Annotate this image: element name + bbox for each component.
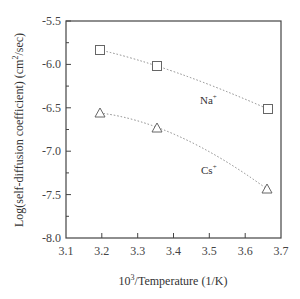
cs-fit-curve xyxy=(100,113,267,189)
square-marker xyxy=(96,46,105,55)
svg-text:3.5: 3.5 xyxy=(202,244,217,258)
svg-text:3.4: 3.4 xyxy=(166,244,181,258)
na-series-markers xyxy=(96,46,273,114)
y-tick-labels: -5.5 -6.0 -6.5 -7.0 -7.5 -8.0 xyxy=(42,14,61,245)
y-axis-title: Log(self-diffusion coefficient) (cm2/sec… xyxy=(11,33,26,227)
svg-text:-5.5: -5.5 xyxy=(42,14,61,28)
cs-series-label: Cs+ xyxy=(201,163,217,176)
square-marker xyxy=(153,62,162,71)
svg-text:3.6: 3.6 xyxy=(238,244,253,258)
svg-text:3.2: 3.2 xyxy=(94,244,109,258)
svg-text:-6.5: -6.5 xyxy=(42,101,61,115)
svg-text:-6.0: -6.0 xyxy=(42,57,61,71)
x-tick-labels: 3.1 3.2 3.3 3.4 3.5 3.6 3.7 xyxy=(59,244,289,258)
square-marker xyxy=(264,105,273,114)
triangle-marker xyxy=(152,123,162,132)
x-axis-ticks xyxy=(102,233,245,238)
cs-series-markers xyxy=(95,108,272,193)
svg-text:-8.0: -8.0 xyxy=(42,231,61,245)
na-series-label: Na+ xyxy=(200,93,217,106)
svg-text:-7.5: -7.5 xyxy=(42,188,61,202)
triangle-marker xyxy=(95,108,105,117)
svg-text:3.7: 3.7 xyxy=(274,244,289,258)
svg-text:-7.0: -7.0 xyxy=(42,144,61,158)
triangle-marker xyxy=(262,184,272,193)
x-axis-title: 103/Temperature (1/K) xyxy=(119,273,228,288)
na-fit-curve xyxy=(100,50,268,109)
svg-text:3.1: 3.1 xyxy=(59,244,74,258)
chart: -5.5 -6.0 -6.5 -7.0 -7.5 -8.0 3.1 3.2 3.… xyxy=(0,0,300,299)
svg-text:3.3: 3.3 xyxy=(130,244,145,258)
y-axis-ticks xyxy=(66,21,71,216)
